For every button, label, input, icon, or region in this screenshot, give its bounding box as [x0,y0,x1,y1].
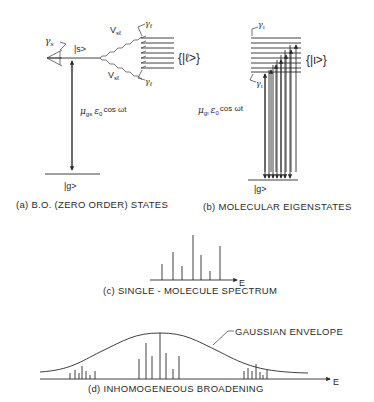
manifold-i-levels [250,27,301,82]
spectrum-lines-d-right [244,364,267,379]
envelope-label: GAUSSIAN ENVELOPE [235,326,343,337]
manifold-l-levels [138,24,174,80]
eigenstate-transition-arrows [265,45,296,178]
panel-c: E (c) SINGLE - MOLECULE SPECTRUM [103,235,277,296]
gamma-s-linewidth: γs [45,36,66,66]
gamma-i-label-top: γι [258,20,265,30]
gamma-i-label-bottom: γι [256,79,263,89]
coupling-wave-up [100,37,142,58]
manifold-i-label: {|ι>} [306,53,327,67]
state-s-label: |s> [74,44,86,54]
transition-label-a: μgsε0cos ωt [80,105,127,117]
spectrum-lines-d-center [139,333,179,379]
caption-d: (d) INHOMOGENEOUS BROADENING [88,383,264,394]
spectrum-lines-c [162,235,220,280]
gamma-l-label-top: γℓ [145,19,153,29]
transition-label-b: μgιε0cos ωt [198,104,244,116]
state-g-label-a: |g> [64,181,77,191]
energy-level-diagram: γs |s> Vsℓ Vsℓ γℓ γℓ {|ℓ>} μgsε0cos ωt [0,0,374,402]
coupling-label-bottom: Vsℓ [108,70,119,81]
axis-label-d: E [333,377,339,387]
panel-a: γs |s> Vsℓ Vsℓ γℓ γℓ {|ℓ>} μgsε0cos ωt [16,19,200,210]
state-g-label-b: |g> [254,184,267,194]
manifold-l-label: {|ℓ>} [178,51,200,65]
coupling-label-top: Vsℓ [110,25,121,36]
caption-b: (b) MOLECULAR EIGENSTATES [203,201,352,212]
caption-a: (a) B.O. (ZERO ORDER) STATES [16,199,168,210]
envelope-leader [213,331,234,345]
panel-d: E GAUSSIAN ENVELOPE [40,326,343,394]
gamma-s-label: γs [45,36,53,47]
gaussian-envelope [40,333,308,373]
spectrum-lines-d-left [70,366,95,379]
coupling-wave-down [100,58,142,79]
gamma-l-label-bottom: γℓ [145,77,153,87]
panel-b: γι γι {|ι>} μgιε0cos ωt |g> (b) MOLECULA… [198,20,352,212]
caption-c: (c) SINGLE - MOLECULE SPECTRUM [103,285,277,296]
